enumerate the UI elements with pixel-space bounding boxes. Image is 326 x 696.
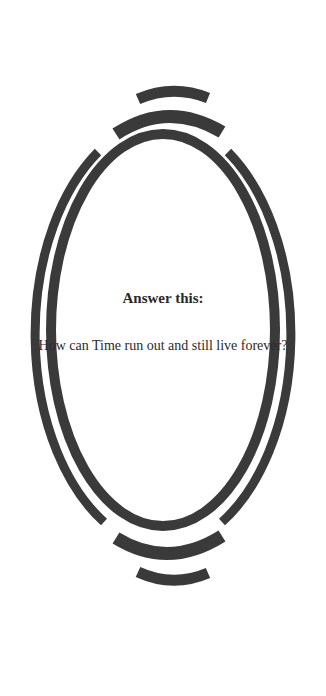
- bottom-arc-band-outer: [138, 572, 208, 580]
- bottom-arc-band-middle: [116, 536, 222, 554]
- inner-ellipse-ring: [51, 134, 275, 526]
- top-arc-band-outer: [138, 91, 208, 99]
- prompt-question: How can Time run out and still live fore…: [0, 338, 326, 354]
- right-outer-arc: [222, 152, 291, 522]
- prompt-title: Answer this:: [0, 290, 326, 307]
- left-outer-arc: [35, 152, 104, 522]
